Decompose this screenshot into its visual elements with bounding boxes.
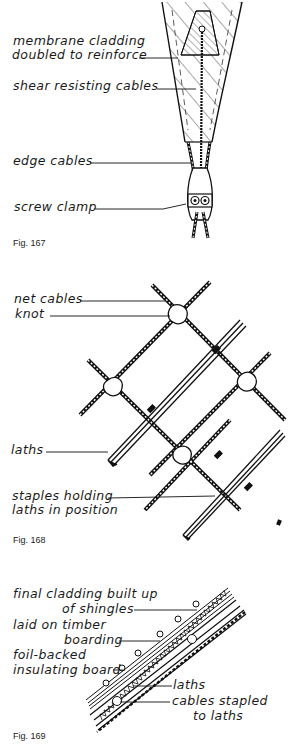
figure-caption: Fig. 168 [13,535,46,545]
label-net-cables: net cables [14,292,83,305]
label-doubled-to-reinforce: doubled to reinforce [12,48,147,61]
label-staples-holding: staples holding [12,489,113,502]
figure-168: net cables knot laths staples holding la… [0,270,289,570]
label-membrane-cladding: membrane cladding [13,34,145,47]
label-screw-clamp: screw clamp [14,200,97,213]
label-laid-on-timber: laid on timber [13,618,106,631]
label-edge-cables: edge cables [13,154,93,167]
label-insulating-board: insulating board [13,663,121,676]
figure-167: membrane cladding doubled to reinforce s… [0,0,289,270]
label-of-shingles: of shingles [62,602,134,615]
label-laths: laths [173,678,205,691]
label-final-cladding: final cladding built up [13,587,158,600]
label-to-laths: to laths [193,709,243,722]
figure-caption: Fig. 169 [13,731,46,741]
label-boarding: boarding [64,633,123,646]
label-foil-backed: foil-backed [13,648,86,661]
figure-caption: Fig. 167 [13,238,46,248]
label-laths: laths [11,443,43,456]
label-knot: knot [15,307,44,320]
label-shear-resisting-cables: shear resisting cables [13,79,158,92]
figure-169: final cladding built up of shingles laid… [0,570,289,748]
label-laths-in-position: laths in position [12,503,118,516]
label-cables-stapled: cables stapled [172,694,268,707]
